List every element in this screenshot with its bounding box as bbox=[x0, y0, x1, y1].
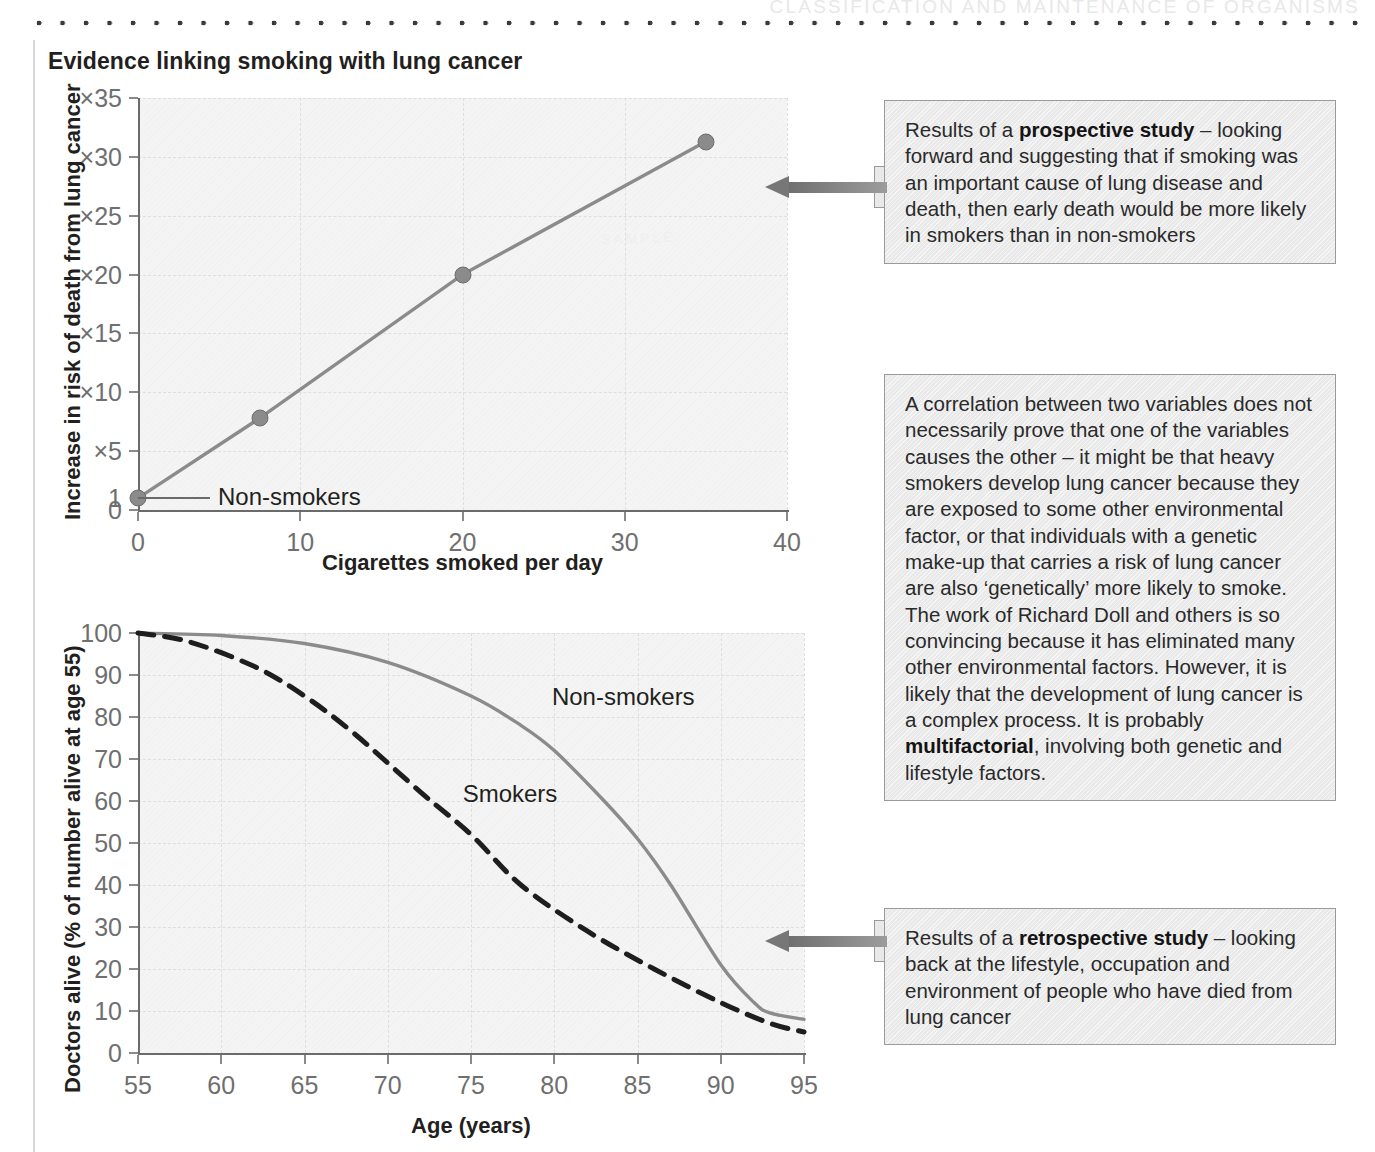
series-canvas bbox=[36, 88, 836, 558]
arrow-head bbox=[765, 176, 789, 198]
arrow-head bbox=[765, 930, 789, 952]
series-line-smokers bbox=[138, 633, 804, 1032]
series-line-increase-in-risk-of-death-from-lung-cancer bbox=[138, 142, 706, 499]
chart2-x-axis-title: Age (years) bbox=[138, 1113, 804, 1139]
prospective-study-callout: Results of a prospective study – looking… bbox=[884, 100, 1336, 264]
series-label-smokers: Smokers bbox=[463, 780, 558, 808]
callout-text-segment: A correlation between two variables does… bbox=[905, 392, 1312, 731]
arrow-shaft bbox=[787, 936, 887, 947]
chart-doctors-alive-vs-age: 0102030405060708090100556065707580859095… bbox=[36, 615, 836, 1152]
chart1-y-axis-title: Increase in risk of death from lung canc… bbox=[60, 84, 86, 520]
running-head: CLASSIFICATION AND MAINTENANCE OF ORGANI… bbox=[600, 0, 1360, 18]
data-point-marker bbox=[251, 410, 268, 427]
correlation-causation-callout: A correlation between two variables does… bbox=[884, 374, 1336, 801]
series-label-non-smokers: Non-smokers bbox=[552, 683, 695, 711]
callout-text-segment: prospective study bbox=[1019, 118, 1194, 141]
non-smokers-annotation-label: Non-smokers bbox=[218, 483, 361, 511]
retrospective-study-callout: Results of a retrospective study – looki… bbox=[884, 908, 1336, 1045]
callout-text-segment: retrospective study bbox=[1019, 926, 1208, 949]
non-smokers-leader-line bbox=[138, 497, 210, 499]
arrow-left-icon-prospective bbox=[765, 176, 887, 198]
arrow-left-icon-retrospective bbox=[765, 930, 887, 952]
callout-text-segment: multifactorial bbox=[905, 734, 1034, 757]
page-title: Evidence linking smoking with lung cance… bbox=[48, 48, 522, 75]
chart-risk-vs-cigarettes: 01×5×10×15×20×25×30×35010203040 Non-smok… bbox=[36, 88, 836, 558]
callout-text-segment: Results of a bbox=[905, 926, 1019, 949]
data-point-marker bbox=[697, 133, 714, 150]
callout-text-segment: Results of a bbox=[905, 118, 1019, 141]
arrow-shaft bbox=[787, 182, 887, 193]
series-line-non-smokers bbox=[138, 633, 804, 1019]
chart1-x-axis-title: Cigarettes smoked per day bbox=[138, 550, 787, 576]
data-point-marker bbox=[454, 266, 471, 283]
chart2-y-axis-title: Doctors alive (% of number alive at age … bbox=[60, 646, 86, 1093]
faint-watermark: SAMPLE bbox=[601, 229, 676, 248]
series-canvas bbox=[36, 615, 836, 1152]
dotted-rule-divider bbox=[36, 20, 1375, 28]
